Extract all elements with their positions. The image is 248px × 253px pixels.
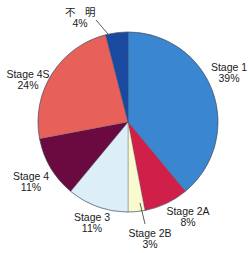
pie-slices <box>38 32 218 212</box>
label-stage-4-pct: 11% <box>13 182 49 193</box>
label-stage-4s-pct: 24% <box>6 80 49 91</box>
label-unknown: 不 明 4% <box>65 7 95 29</box>
label-stage-2a: Stage 2A 8% <box>166 206 209 228</box>
label-stage-3: Stage 3 11% <box>74 212 110 234</box>
label-stage-4: Stage 4 11% <box>13 171 49 193</box>
label-stage-2b-pct: 3% <box>128 239 171 250</box>
label-unknown-pct: 4% <box>65 18 95 29</box>
label-stage-3-pct: 11% <box>74 223 110 234</box>
label-stage-4s: Stage 4S 24% <box>6 69 49 91</box>
unknown-leader <box>96 20 108 34</box>
label-stage-2a-pct: 8% <box>166 217 209 228</box>
label-stage-1: Stage 1 39% <box>211 62 247 84</box>
label-stage-2b: Stage 2B 3% <box>128 228 171 250</box>
label-stage-1-pct: 39% <box>211 73 247 84</box>
pie-chart <box>0 0 248 253</box>
